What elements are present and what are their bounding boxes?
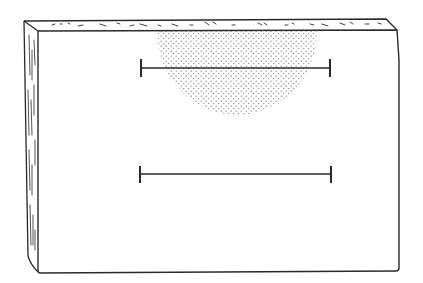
lower-measurement-bar [140,166,331,183]
stippled-region [157,31,317,115]
board-left-edge [24,21,38,272]
board-top-edge [24,19,397,31]
diagram-canvas [0,0,423,283]
